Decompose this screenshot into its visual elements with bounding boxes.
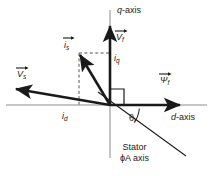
q-axis-current-label: iq	[114, 54, 120, 63]
rotor-angle-label: θr	[129, 114, 136, 123]
field-voltage-label: Vf	[116, 33, 124, 42]
stator-voltage-subscript: s	[23, 73, 26, 80]
rotor-angle-subscript: r	[134, 117, 136, 124]
vector-arrow-overbar-icon	[16, 66, 22, 70]
stator-annotation-line2: ϕA axis	[120, 153, 149, 164]
field-flux-label: Ψf	[160, 76, 169, 85]
q-axis-label: q-axis	[117, 6, 141, 15]
vector-arrow-overbar-icon	[115, 29, 121, 33]
diagram-canvas	[0, 0, 213, 176]
q-axis-suffix: -axis	[122, 5, 141, 15]
stator-current-label: is	[64, 41, 69, 50]
d-axis-current-label: id	[62, 112, 68, 121]
vector-arrow-overbar-icon	[63, 36, 65, 40]
d-axis-suffix: -axis	[176, 112, 195, 122]
phasor-diagram-figure: q-axis d-axis Vf Vs is	[0, 0, 213, 176]
d-axis-label: d-axis	[171, 113, 195, 122]
d-axis-current-subscript: d	[64, 115, 68, 122]
stator-current-vector	[80, 55, 110, 105]
stator-annotation-line1: Stator	[120, 142, 149, 153]
field-flux-subscript: f	[167, 79, 169, 86]
stator-phase-a-axis-annotation: Stator ϕA axis	[120, 142, 149, 164]
field-voltage-subscript: f	[122, 36, 124, 43]
stator-voltage-label: Vs	[17, 70, 26, 79]
vector-arrow-overbar-icon	[159, 72, 166, 76]
stator-voltage-vector	[16, 89, 110, 105]
q-axis-current-subscript: q	[116, 57, 120, 64]
stator-current-subscript: s	[66, 44, 69, 51]
